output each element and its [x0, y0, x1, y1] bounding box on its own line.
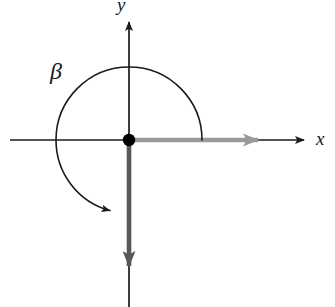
angle-diagram-figure: x y β [0, 0, 335, 307]
origin-dot [123, 134, 135, 146]
angle-beta-label: β [50, 59, 62, 83]
y-axis-label: y [117, 0, 125, 14]
diagram-canvas [0, 0, 335, 307]
x-axis-label: x [316, 129, 324, 148]
